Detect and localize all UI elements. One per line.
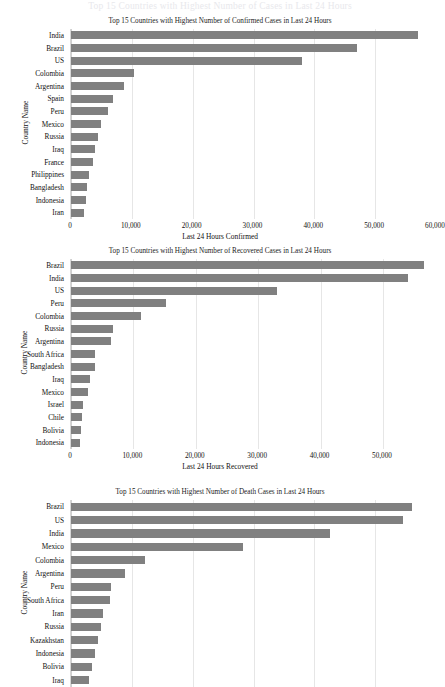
y-tick-label: Philippines <box>31 170 64 179</box>
y-tick-label: Iraq <box>52 676 64 685</box>
y-tick-labels: IndiaBrazilUSColombiaArgentinaSpainPeruM… <box>0 29 68 219</box>
y-tick-label: US <box>55 286 64 295</box>
chart-title: Top 15 Countries with Highest Number of … <box>0 17 440 26</box>
plot-inner <box>71 29 435 219</box>
bar <box>71 363 95 371</box>
chart-deaths: Top 15 Countries with Highest Number of … <box>0 460 440 687</box>
plot-area <box>70 29 435 219</box>
bar <box>71 609 103 617</box>
bar <box>71 171 89 179</box>
y-tick-label: Bolivia <box>43 426 65 435</box>
bar <box>71 145 95 153</box>
chart-title: Top 15 Countries with Highest Number of … <box>0 247 440 256</box>
bar <box>71 569 125 577</box>
y-tick-label: Mexico <box>42 388 64 397</box>
y-tick-label: Iraq <box>52 145 64 154</box>
bar <box>71 299 166 307</box>
plot-area <box>70 500 435 687</box>
bar <box>71 439 80 447</box>
y-tick-label: Mexico <box>42 542 64 551</box>
y-tick-label: Indonesia <box>36 196 64 205</box>
y-tick-label: India <box>49 31 64 40</box>
y-tick-label: Colombia <box>35 69 64 78</box>
y-tick-label: Peru <box>51 107 64 116</box>
bar <box>71 133 98 141</box>
bar <box>71 274 408 282</box>
gridline <box>193 500 194 687</box>
y-tick-label: Bangladesh <box>30 183 64 192</box>
y-tick-label: Brazil <box>46 502 64 511</box>
bar <box>71 120 101 128</box>
bar <box>71 95 113 103</box>
plot-area <box>70 259 435 449</box>
y-tick-label: Peru <box>51 582 64 591</box>
y-tick-label: Iran <box>52 609 64 618</box>
y-tick-label: Iraq <box>52 375 64 384</box>
gridline <box>314 500 315 687</box>
bar <box>71 325 113 333</box>
gridline <box>314 29 315 219</box>
bar <box>71 209 84 217</box>
bar <box>71 375 90 383</box>
plot-inner <box>71 259 435 449</box>
bar <box>71 350 95 358</box>
bar <box>71 623 101 631</box>
y-tick-label: Russia <box>45 622 64 631</box>
bar <box>71 337 111 345</box>
bar <box>71 503 412 511</box>
bar <box>71 261 424 269</box>
chart-confirmed: Top 15 Countries with Highest Number of … <box>0 0 440 248</box>
bar <box>71 183 87 191</box>
gridline <box>383 259 384 449</box>
bar <box>71 82 124 90</box>
bar <box>71 413 82 421</box>
bar <box>71 663 92 671</box>
bar <box>71 287 277 295</box>
y-tick-label: Israel <box>48 400 64 409</box>
y-tick-label: Argentina <box>35 337 64 346</box>
bar <box>71 388 88 396</box>
bar <box>71 44 357 52</box>
y-tick-label: US <box>55 56 64 65</box>
gridline <box>375 500 376 687</box>
bar <box>71 196 86 204</box>
y-tick-label: South Africa <box>27 350 64 359</box>
bar <box>71 69 134 77</box>
bar <box>71 57 302 65</box>
y-tick-label: Bangladesh <box>30 362 64 371</box>
y-tick-label: Chile <box>48 413 64 422</box>
gridline <box>375 29 376 219</box>
bar <box>71 107 108 115</box>
bar <box>71 676 89 684</box>
bar <box>71 529 330 537</box>
bar <box>71 158 93 166</box>
bar <box>71 543 243 551</box>
y-tick-label: Spain <box>47 94 64 103</box>
y-tick-label: India <box>49 274 64 283</box>
plot-inner <box>71 500 435 687</box>
y-tick-label: Colombia <box>35 312 64 321</box>
y-axis-line <box>71 500 72 687</box>
y-tick-label: South Africa <box>27 596 64 605</box>
y-tick-label: Brazil <box>46 261 64 270</box>
y-tick-label: Peru <box>51 299 64 308</box>
bar <box>71 516 403 524</box>
y-tick-label: Indonesia <box>36 649 64 658</box>
bar <box>71 583 111 591</box>
y-tick-label: Colombia <box>35 556 64 565</box>
y-tick-label: France <box>44 158 64 167</box>
bar <box>71 649 95 657</box>
y-tick-labels: BrazilUSIndiaMexicoColombiaArgentinaPeru… <box>0 500 68 687</box>
y-tick-label: Brazil <box>46 44 64 53</box>
bar <box>71 596 110 604</box>
chart-recovered: Top 15 Countries with Highest Number of … <box>0 230 440 478</box>
gridline <box>321 259 322 449</box>
gridline <box>132 500 133 687</box>
bar <box>71 31 418 39</box>
y-tick-label: Russia <box>45 324 64 333</box>
y-tick-label: Kazakhstan <box>30 636 64 645</box>
y-tick-label: Argentina <box>35 82 64 91</box>
gridline <box>254 500 255 687</box>
y-tick-label: US <box>55 516 64 525</box>
